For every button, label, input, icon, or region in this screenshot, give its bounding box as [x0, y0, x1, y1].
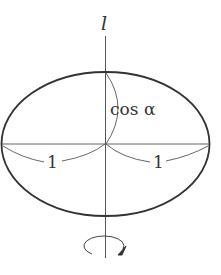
left-radius-brace: [3, 146, 44, 162]
axis-label: l: [101, 12, 107, 34]
left-radius-brace-part: [62, 144, 105, 161]
right-radius-brace: [106, 144, 150, 162]
cos-alpha-label: cos α: [110, 99, 156, 119]
right-radius-label: 1: [153, 152, 164, 172]
rotation-arrow-icon: [84, 236, 126, 255]
right-radius-brace-part: [166, 146, 208, 161]
ellipse-rotation-diagram: l cos α 1 1: [0, 0, 221, 275]
left-radius-label: 1: [47, 152, 58, 172]
